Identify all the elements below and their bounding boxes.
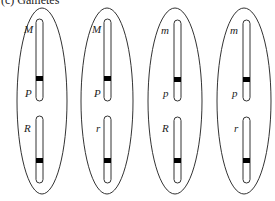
centromere-icon xyxy=(174,158,181,163)
chromosome-upper xyxy=(36,19,43,101)
gametes-diagram: M P R M P r m p R xyxy=(0,0,275,201)
gamete-1: M P R xyxy=(17,8,67,194)
chromosome-lower xyxy=(243,117,250,183)
centromere-icon xyxy=(104,158,111,163)
chromosome-lower xyxy=(174,117,181,183)
allele-label-lower: R xyxy=(23,122,31,134)
chromosome-upper xyxy=(104,19,111,101)
allele-label-top: m xyxy=(230,24,238,36)
allele-label-lower: R xyxy=(161,122,169,134)
chromosome-lower xyxy=(36,116,43,183)
gamete-3: m p R xyxy=(148,8,202,194)
gamete-4: m p r xyxy=(217,8,271,194)
allele-label-top: M xyxy=(91,23,102,35)
allele-label-mid: P xyxy=(24,87,32,99)
allele-label-mid: p xyxy=(231,87,238,99)
allele-label-top: M xyxy=(23,23,34,35)
centromere-icon xyxy=(36,158,43,163)
allele-label-lower: r xyxy=(234,122,239,134)
allele-label-mid: P xyxy=(93,87,101,99)
chromosome-lower xyxy=(104,116,111,183)
allele-label-top: m xyxy=(161,24,169,36)
chromosome-upper xyxy=(243,20,250,101)
allele-label-lower: r xyxy=(96,122,101,134)
centromere-icon xyxy=(243,158,250,163)
centromere-icon xyxy=(243,77,250,82)
chromosome-upper xyxy=(174,20,181,101)
centromere-icon xyxy=(104,76,111,81)
gamete-2: M P r xyxy=(81,8,133,194)
centromere-icon xyxy=(36,76,43,81)
allele-label-mid: p xyxy=(162,87,169,99)
centromere-icon xyxy=(174,77,181,82)
